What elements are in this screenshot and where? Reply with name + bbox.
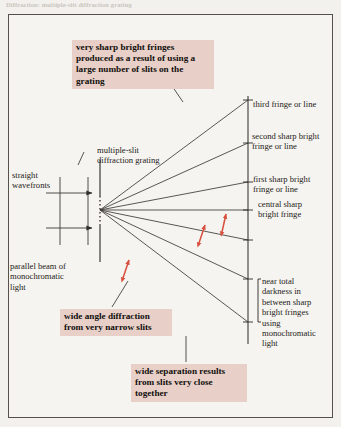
label-first-fringe: first sharp bright fringe or line <box>253 174 337 195</box>
figure-page: Diffraction: multiple-slit diffraction g… <box>0 0 341 427</box>
label-diffraction-grating: multiple-slit diffraction grating <box>97 145 192 166</box>
label-third-fringe: third fringe or line <box>253 99 339 109</box>
label-parallel-beam: parallel beam of monochromatic light <box>10 261 90 292</box>
callout-wide-angle-diffraction: wide angle diffraction from very narrow … <box>60 309 172 336</box>
label-near-total-darkness: near total darkness in between sharp bri… <box>262 276 336 349</box>
callout-very-sharp-fringes: very sharp bright fringes produced as a … <box>72 40 214 89</box>
label-straight-wavefronts: straight wavefronts <box>12 170 72 191</box>
label-second-fringe: second sharp bright fringe or line <box>252 131 340 152</box>
label-central-fringe: central sharp bright fringe <box>258 199 336 220</box>
bleed-through-header: Diffraction: multiple-slit diffraction g… <box>6 1 206 8</box>
callout-wide-separation: wide separation results from slits very … <box>131 364 247 402</box>
